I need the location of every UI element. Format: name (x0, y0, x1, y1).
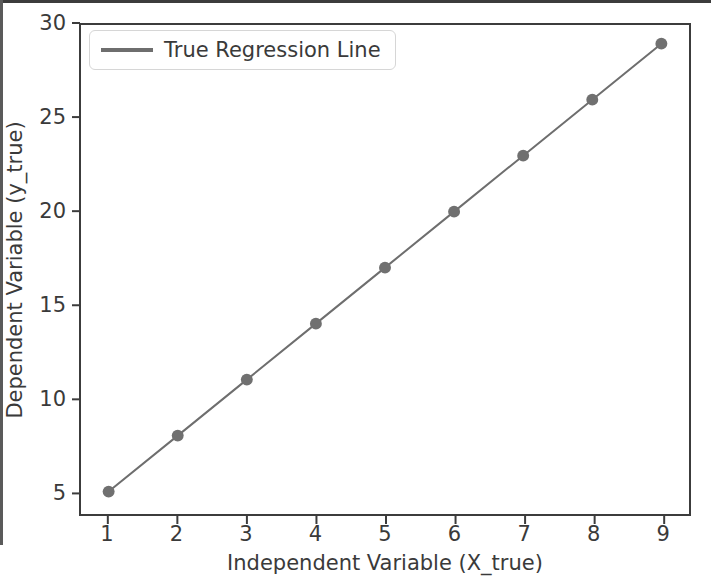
y-axis-tick-labels: 51015202530 (14, 23, 66, 516)
x-tick-label: 4 (295, 524, 335, 545)
data-point-marker (172, 430, 184, 442)
plot-svg (81, 25, 689, 514)
data-point-marker (517, 150, 529, 162)
legend-label: True Regression Line (164, 38, 381, 62)
x-axis-tick-labels: 123456789 (79, 524, 691, 550)
x-tick-label: 6 (435, 524, 475, 545)
x-axis-title: Independent Variable (X_true) (79, 551, 691, 575)
x-tick-label: 8 (574, 524, 614, 545)
y-tick-label: 25 (20, 107, 66, 128)
y-tick-label: 10 (20, 389, 66, 410)
y-tick-label: 5 (20, 483, 66, 504)
data-point-marker (103, 486, 115, 498)
data-series-group (103, 38, 668, 498)
figure-canvas: Dependent Variable (y_true) 51015202530 … (0, 0, 711, 579)
data-point-marker (655, 38, 667, 50)
x-tick-label: 1 (87, 524, 127, 545)
y-tick-label: 30 (20, 13, 66, 34)
x-tick-label: 9 (643, 524, 683, 545)
x-tick-label: 5 (365, 524, 405, 545)
data-point-marker (310, 318, 322, 330)
x-tick-label: 7 (504, 524, 544, 545)
figure-frame-top-edge (0, 0, 711, 3)
x-tick-label: 3 (226, 524, 266, 545)
y-tick-label: 20 (20, 201, 66, 222)
plot-area: True Regression Line (79, 23, 691, 516)
data-point-marker (448, 206, 460, 218)
legend-line-swatch (101, 48, 153, 52)
legend-box[interactable]: True Regression Line (89, 30, 396, 70)
data-point-marker (379, 262, 391, 274)
data-point-marker (586, 94, 598, 106)
y-tick-label: 15 (20, 295, 66, 316)
data-point-marker (241, 374, 253, 386)
x-tick-label: 2 (156, 524, 196, 545)
